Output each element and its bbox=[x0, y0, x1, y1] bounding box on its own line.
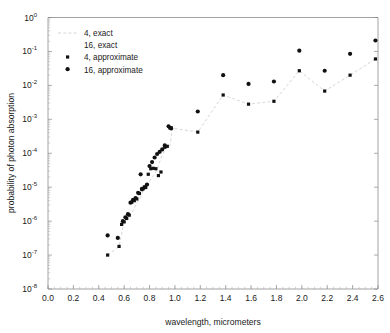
y-tick-label: 10-6 bbox=[22, 215, 37, 226]
x-tick-label: 1.4 bbox=[220, 293, 232, 303]
data-point-circle bbox=[133, 196, 137, 200]
x-tick-label: 0.0 bbox=[42, 293, 54, 303]
data-point-square bbox=[298, 69, 301, 72]
x-axis-tick-labels: 0.00.20.40.60.81.01.21.41.61.82.02.22.42… bbox=[42, 293, 384, 303]
data-point-square bbox=[157, 174, 160, 177]
x-tick-label: 2.2 bbox=[321, 293, 333, 303]
legend-marker-circle bbox=[66, 67, 70, 71]
data-point-circle bbox=[153, 155, 157, 159]
data-point-square bbox=[106, 253, 109, 256]
data-point-circle bbox=[163, 143, 167, 147]
x-tick-label: 2.6 bbox=[372, 293, 384, 303]
x-tick-label: 0.6 bbox=[118, 293, 130, 303]
data-point-square bbox=[348, 74, 351, 77]
x-axis-title: wavelength, micrometers bbox=[164, 317, 261, 327]
x-tick-label: 0.4 bbox=[93, 293, 105, 303]
data-point-circle bbox=[348, 52, 352, 56]
y-tick-label: 10-5 bbox=[22, 181, 37, 192]
y-tick-label: 10-7 bbox=[22, 249, 37, 260]
data-point-square bbox=[247, 103, 250, 106]
scatter-plot-svg: 10010-110-210-310-410-510-610-710-8 0.00… bbox=[0, 0, 390, 333]
data-point-square bbox=[159, 170, 162, 173]
x-tick-label: 2.4 bbox=[347, 293, 359, 303]
legend-entry-label: 4, approximate bbox=[84, 53, 139, 62]
y-axis-tick-labels: 10010-110-210-310-410-510-610-710-8 bbox=[22, 12, 37, 295]
data-point-circle bbox=[169, 126, 173, 130]
x-tick-label: 0.2 bbox=[67, 293, 79, 303]
data-point-circle bbox=[323, 69, 327, 73]
series-4-approximate-points bbox=[106, 57, 377, 256]
y-tick-label: 10-1 bbox=[22, 45, 37, 56]
data-point-circle bbox=[150, 160, 154, 164]
y-tick-label: 100 bbox=[24, 12, 37, 23]
data-point-square bbox=[196, 131, 199, 134]
data-point-square bbox=[147, 173, 150, 176]
x-tick-label: 1.8 bbox=[271, 293, 283, 303]
legend-entry-label: 16, approximate bbox=[84, 66, 143, 75]
x-tick-label: 1.6 bbox=[245, 293, 257, 303]
data-point-circle bbox=[272, 79, 276, 83]
data-point-circle bbox=[297, 49, 301, 53]
x-tick-label: 0.8 bbox=[144, 293, 156, 303]
data-point-circle bbox=[121, 219, 125, 223]
data-point-circle bbox=[221, 73, 225, 77]
data-point-square bbox=[323, 89, 326, 92]
data-point-square bbox=[222, 93, 225, 96]
data-point-circle bbox=[145, 182, 149, 186]
y-tick-label: 10-3 bbox=[22, 113, 37, 124]
chart-legend: 4, exact16, exact4, approximate16, appro… bbox=[58, 29, 143, 75]
y-tick-label: 10-4 bbox=[22, 147, 37, 158]
chart-figure: 10010-110-210-310-410-510-610-710-8 0.00… bbox=[0, 0, 390, 333]
data-point-circle bbox=[139, 172, 143, 176]
x-tick-label: 2.0 bbox=[296, 293, 308, 303]
data-point-circle bbox=[196, 109, 200, 113]
data-point-circle bbox=[373, 38, 377, 42]
data-point-square bbox=[374, 57, 377, 60]
data-point-circle bbox=[160, 147, 164, 151]
x-tick-label: 1.0 bbox=[169, 293, 181, 303]
y-axis-title: probability of photon absorption bbox=[6, 93, 16, 213]
data-point-circle bbox=[106, 233, 110, 237]
series-16-approximate-points bbox=[106, 38, 378, 240]
y-tick-label: 10-2 bbox=[22, 79, 37, 90]
data-point-square bbox=[272, 100, 275, 103]
data-point-circle bbox=[147, 164, 151, 168]
y-tick-label: 10-8 bbox=[22, 283, 37, 294]
data-point-circle bbox=[116, 236, 120, 240]
data-point-circle bbox=[246, 82, 250, 86]
data-point-circle bbox=[136, 191, 140, 195]
data-point-circle bbox=[126, 212, 130, 216]
legend-entry-label: 4, exact bbox=[84, 29, 113, 38]
legend-marker-square bbox=[66, 55, 69, 58]
data-point-square bbox=[154, 167, 157, 170]
legend-entry-label: 16, exact bbox=[84, 41, 118, 50]
x-tick-label: 1.2 bbox=[194, 293, 206, 303]
data-point-square bbox=[117, 245, 120, 248]
series-4-exact-line bbox=[108, 59, 376, 255]
